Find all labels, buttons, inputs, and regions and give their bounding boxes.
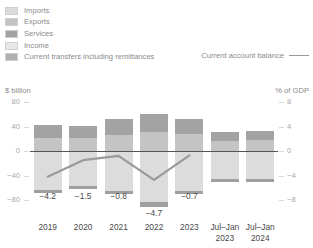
legend-swatch-income xyxy=(5,42,18,50)
right-tick-mark xyxy=(279,176,284,177)
left-tick-mark xyxy=(24,102,29,103)
right-axis-tick-label: −4 xyxy=(287,171,307,180)
x-axis-tick-label-line: Jul–Jan xyxy=(235,222,285,233)
legend-label-imports: Imports xyxy=(24,7,49,15)
left-axis-title: $ billion xyxy=(5,86,31,95)
current-account-balance-line xyxy=(30,102,278,200)
left-axis-tick-label: −40 xyxy=(0,171,20,180)
legend-swatch-current-transfers xyxy=(5,53,18,61)
right-tick-mark xyxy=(279,127,284,128)
legend-label-current-transfers: Current transfers including remittances xyxy=(24,53,154,61)
line-data-label: −1.5 xyxy=(63,191,103,201)
legend-swatch-services xyxy=(5,30,18,38)
left-tick-mark xyxy=(24,176,29,177)
left-axis-tick-label: 80 xyxy=(0,97,20,106)
left-axis-tick-label: −80 xyxy=(0,195,20,204)
legend-swatch-exports xyxy=(5,18,18,26)
left-tick-mark xyxy=(24,127,29,128)
left-axis-tick-label: 0 xyxy=(0,146,20,155)
right-tick-mark xyxy=(279,200,284,201)
right-axis-tick-label: 4 xyxy=(287,122,307,131)
right-tick-mark xyxy=(279,151,284,152)
x-axis-tick-label-line: 2024 xyxy=(235,233,285,244)
legend-label-services: Services xyxy=(24,30,53,38)
right-axis-tick-label: −8 xyxy=(287,195,307,204)
plot-area: 80840400−40−4−80−8−4.2−1.5−0.8−4.7−0.720… xyxy=(30,102,278,200)
left-axis-tick-label: 40 xyxy=(0,122,20,131)
legend-item-services: Services xyxy=(5,28,308,40)
bar-segment xyxy=(140,202,168,206)
line-data-label: −4.7 xyxy=(134,208,174,218)
legend-item-current-account-balance: Current account balance xyxy=(201,51,309,60)
x-axis-tick-label: Jul–Jan2024 xyxy=(235,222,285,243)
right-axis-title: % of GDP xyxy=(275,86,309,95)
right-axis-tick-label: 8 xyxy=(287,97,307,106)
line-data-label: −4.2 xyxy=(28,191,68,201)
right-axis-tick-label: 0 xyxy=(287,146,307,155)
legend-label-current-account-balance: Current account balance xyxy=(201,51,284,60)
legend-item-exports: Exports xyxy=(5,17,308,29)
line-data-label: −0.8 xyxy=(99,191,139,201)
legend-label-income: Income xyxy=(24,42,49,50)
legend-line-swatch xyxy=(289,55,309,56)
legend-swatch-imports xyxy=(5,7,18,15)
left-tick-mark xyxy=(24,151,29,152)
right-tick-mark xyxy=(279,102,284,103)
legend-item-income: Income xyxy=(5,40,308,52)
legend-label-exports: Exports xyxy=(24,18,50,26)
line-data-label: −0.7 xyxy=(169,191,209,201)
chart-container: Imports Exports Services Income Current … xyxy=(0,0,313,248)
legend-item-imports: Imports xyxy=(5,5,308,17)
